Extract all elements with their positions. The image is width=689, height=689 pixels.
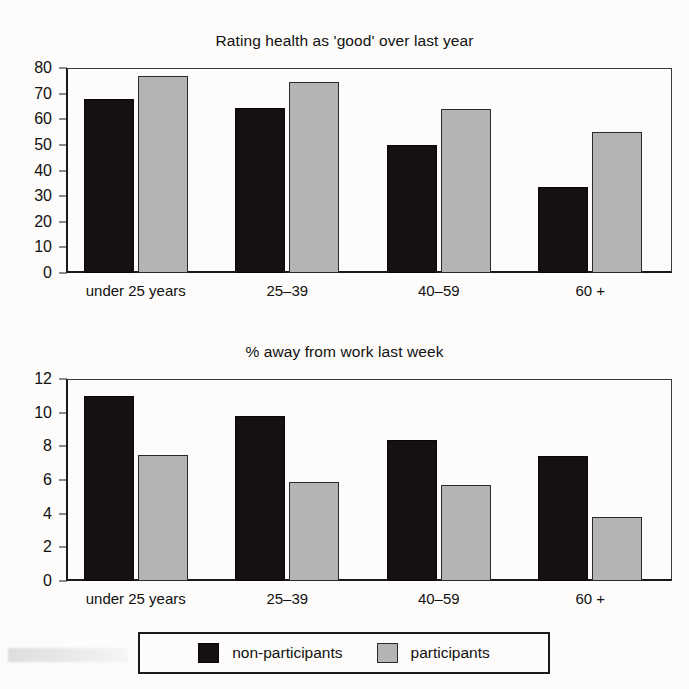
legend-label-participants: participants: [411, 644, 490, 662]
y-tick-label-health-0: 0: [6, 265, 52, 281]
y-tick-label-absence-0: 0: [6, 573, 52, 589]
y-tick-label-health-3: 30: [6, 188, 52, 204]
legend-entry-non-participants: non-participants: [198, 643, 342, 663]
y-tick-mark-absence-5: [59, 412, 67, 413]
chart-panel-health: Rating health as 'good' over last year: [0, 32, 689, 50]
y-tick-label-health-5: 50: [6, 137, 52, 153]
bar-absence-participants-1: [289, 482, 339, 581]
y-tick-label-absence-4: 8: [6, 438, 52, 454]
y-tick-label-health-6: 60: [6, 111, 52, 127]
legend: non-participants participants: [138, 632, 550, 674]
legend-label-non-participants: non-participants: [232, 644, 342, 662]
scan-artifact: [8, 648, 128, 662]
y-tick-mark-absence-2: [59, 513, 67, 514]
y-tick-label-health-7: 70: [6, 86, 52, 102]
x-tick-label-health-3: 60 +: [575, 282, 605, 299]
y-tick-label-health-2: 20: [6, 214, 52, 230]
x-tick-label-health-1: 25–39: [266, 282, 308, 299]
chart-panel-absence: % away from work last week: [0, 343, 689, 361]
chart-title-health: Rating health as 'good' over last year: [0, 32, 689, 50]
y-tick-label-health-1: 10: [6, 239, 52, 255]
legend-swatch-participants: [377, 643, 398, 663]
y-tick-mark-absence-1: [59, 547, 67, 548]
bar-absence-non-participants-2: [387, 440, 437, 581]
figure-canvas: Rating health as 'good' over last year 0…: [0, 0, 689, 689]
bar-absence-non-participants-1: [235, 416, 285, 581]
bar-health-participants-3: [592, 132, 642, 273]
x-tick-label-absence-0: under 25 years: [86, 590, 186, 607]
bar-health-participants-1: [289, 82, 339, 273]
legend-entry-participants: participants: [377, 643, 490, 663]
y-tick-mark-absence-4: [59, 446, 67, 447]
x-tick-label-absence-1: 25–39: [266, 590, 308, 607]
bar-absence-participants-2: [441, 485, 491, 581]
y-tick-label-absence-5: 10: [6, 405, 52, 421]
y-tick-mark-health-6: [59, 119, 67, 120]
y-tick-label-absence-6: 12: [6, 371, 52, 387]
y-tick-mark-absence-0: [59, 581, 67, 582]
bar-health-participants-0: [138, 76, 188, 273]
bar-absence-non-participants-3: [538, 456, 588, 581]
y-tick-mark-health-8: [59, 68, 67, 69]
y-tick-mark-health-0: [59, 273, 67, 274]
bar-health-non-participants-2: [387, 145, 437, 273]
y-tick-label-absence-3: 6: [6, 472, 52, 488]
bar-health-non-participants-0: [84, 99, 134, 273]
x-tick-label-absence-2: 40–59: [418, 590, 460, 607]
y-tick-label-absence-1: 2: [6, 539, 52, 555]
bar-health-participants-2: [441, 109, 491, 273]
y-tick-mark-health-7: [59, 93, 67, 94]
y-tick-mark-health-2: [59, 221, 67, 222]
y-tick-mark-health-5: [59, 144, 67, 145]
chart-title-absence: % away from work last week: [0, 343, 689, 361]
y-tick-mark-health-3: [59, 196, 67, 197]
bar-absence-participants-0: [138, 455, 188, 581]
y-tick-mark-absence-6: [59, 379, 67, 380]
y-tick-label-health-8: 80: [6, 60, 52, 76]
y-tick-mark-health-4: [59, 170, 67, 171]
bar-health-non-participants-1: [235, 108, 285, 273]
y-tick-label-health-4: 40: [6, 163, 52, 179]
bar-absence-participants-3: [592, 517, 642, 581]
y-tick-mark-absence-3: [59, 480, 67, 481]
y-tick-label-absence-2: 4: [6, 506, 52, 522]
x-tick-label-health-0: under 25 years: [86, 282, 186, 299]
legend-swatch-non-participants: [198, 643, 219, 663]
bar-absence-non-participants-0: [84, 396, 134, 581]
x-tick-label-absence-3: 60 +: [575, 590, 605, 607]
y-tick-mark-health-1: [59, 247, 67, 248]
bar-health-non-participants-3: [538, 187, 588, 273]
x-tick-label-health-2: 40–59: [418, 282, 460, 299]
